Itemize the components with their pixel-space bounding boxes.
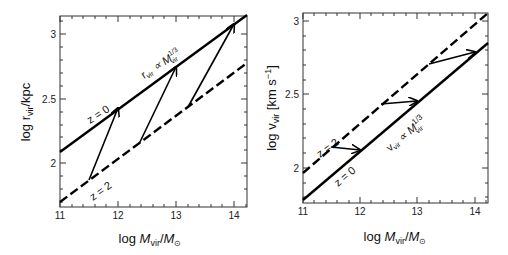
right-xtick-14: 14 [469, 206, 481, 217]
right-x-ticks [303, 13, 486, 203]
right-xtick-13: 13 [411, 206, 423, 217]
left-xtick-12: 12 [112, 210, 124, 221]
left-arrow-3 [188, 24, 234, 107]
right-chart-vvir: 11 12 13 14 2 2.5 3 z = 2 z = 0 vvir ∝ M… [263, 13, 488, 246]
right-line-z0-solid [303, 43, 488, 200]
left-xtick-13: 13 [170, 210, 182, 221]
right-xtick-12: 12 [354, 206, 366, 217]
left-xtick-14: 14 [228, 210, 240, 221]
right-annotation-z0: z = 0 [332, 164, 358, 189]
right-ytick-2: 2 [293, 163, 299, 174]
left-y-ticks [60, 21, 247, 202]
left-ytick-2: 2 [50, 158, 56, 169]
left-ytick-2.5: 2.5 [42, 94, 56, 105]
left-plot-frame [60, 16, 247, 207]
left-ytick-3: 3 [50, 29, 56, 40]
left-annotation-z0: z = 0 [85, 102, 112, 125]
left-xtick-11: 11 [55, 210, 66, 221]
left-chart-rvir: 11 12 13 14 2 2.5 3 z = 0 z = 2 rvir ∝ M… [18, 15, 247, 248]
right-xtick-11: 11 [298, 206, 309, 217]
left-x-ticks [60, 16, 246, 207]
right-y-axis-label: log vvir [km s−1] [263, 65, 281, 151]
right-x-axis-label: log Mvir/M⊙ [364, 229, 427, 246]
right-annotation-z2: z = 2 [314, 136, 341, 160]
left-y-axis-label: log rvir/kpc [18, 82, 35, 141]
left-annotation-z2: z = 2 [87, 179, 114, 203]
right-annotation-relation: vvir ∝ M1/3vir [382, 112, 430, 156]
right-plot-frame [303, 13, 488, 203]
figure: 11 12 13 14 2 2.5 3 z = 0 z = 2 rvir ∝ M… [0, 0, 508, 255]
right-y-ticks [303, 21, 488, 197]
right-ytick-2.5: 2.5 [285, 89, 299, 100]
left-x-axis-label: log Mvir/M⊙ [119, 231, 182, 248]
right-ytick-3: 3 [293, 16, 299, 27]
